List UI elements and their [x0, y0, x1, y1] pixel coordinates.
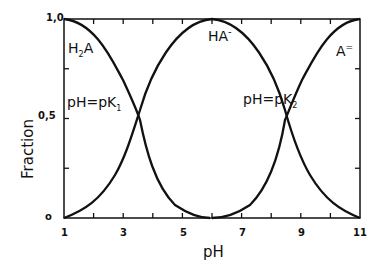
x-axis-label: pH [203, 243, 224, 261]
label-pk1: pH=pK1 [67, 94, 121, 113]
x-ticks [64, 19, 360, 218]
x-tick-11: 11 [353, 227, 367, 238]
x-tick-9: 9 [298, 227, 305, 238]
y-tick-0: o [45, 211, 52, 222]
x-tick-1: 1 [61, 227, 68, 238]
label-pk2: pH=pK2 [243, 91, 297, 110]
curve-ha [64, 19, 360, 218]
x-tick-3: 3 [120, 227, 127, 238]
x-tick-5: 5 [180, 227, 187, 238]
chart-plot [0, 0, 382, 268]
label-ha: HA- [208, 26, 232, 44]
y-tick-05: 0,5 [38, 110, 56, 121]
y-axis-label: Fraction [19, 119, 37, 179]
y-tick-1: 1,0 [46, 12, 64, 23]
label-a: A= [336, 42, 353, 59]
plot-frame [64, 19, 360, 218]
label-h2a: H2A [68, 40, 93, 59]
x-tick-7: 7 [239, 227, 246, 238]
